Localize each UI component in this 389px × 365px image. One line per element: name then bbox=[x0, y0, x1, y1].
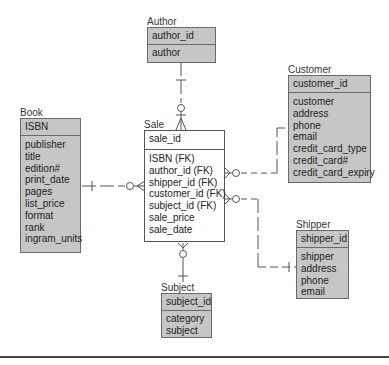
entity-sale-pk: sale_id bbox=[145, 131, 224, 150]
entity-book-attr: format bbox=[25, 210, 76, 222]
entity-customer-box: customer_id customer address phone email… bbox=[288, 75, 371, 183]
entity-book-name: Book bbox=[20, 107, 43, 118]
entity-sale-name: Sale bbox=[144, 119, 164, 130]
entity-book-pk: ISBN bbox=[21, 119, 80, 136]
entity-book-attr: list_price bbox=[25, 198, 76, 210]
entity-customer-attr: credit_card# bbox=[293, 155, 366, 167]
entity-shipper-attr: phone bbox=[301, 275, 344, 287]
entity-book-attr: ingram_units bbox=[25, 233, 76, 245]
entity-sale-attr: customer_id (FK) bbox=[149, 188, 220, 200]
entity-sale-attr: subject_id (FK) bbox=[149, 200, 220, 212]
entity-sale-box: sale_id ISBN (FK) author_id (FK) shipper… bbox=[144, 130, 225, 242]
entity-shipper-attr: address bbox=[301, 263, 344, 275]
entity-book-attr: publisher bbox=[25, 139, 76, 151]
entity-customer-attr: phone bbox=[293, 120, 366, 132]
entity-book-attr: title bbox=[25, 151, 76, 163]
entity-shipper-pk: shipper_id bbox=[297, 231, 348, 248]
footer-divider bbox=[0, 356, 389, 358]
entity-customer-attr: credit_card_expiry bbox=[293, 167, 366, 179]
entity-shipper-name: Shipper bbox=[296, 219, 330, 230]
entity-shipper-attr: shipper bbox=[301, 251, 344, 263]
entity-sale-attr: ISBN (FK) bbox=[149, 153, 220, 165]
entity-subject-pk: subject_id bbox=[162, 294, 211, 311]
entity-sale-attr: sale_price bbox=[149, 212, 220, 224]
entity-book-attr: edition# bbox=[25, 163, 76, 175]
entity-customer-attr: customer bbox=[293, 96, 366, 108]
entity-subject-box: subject_id category subject bbox=[161, 293, 212, 338]
entity-customer-attr: email bbox=[293, 131, 366, 143]
entity-sale-attr: sale_date bbox=[149, 224, 220, 236]
entity-book-attr: rank bbox=[25, 222, 76, 234]
entity-subject-name: Subject bbox=[161, 282, 194, 293]
entity-author-box: author_id author bbox=[147, 27, 216, 63]
entity-author-pk: author_id bbox=[148, 28, 215, 45]
entity-author-attr: author bbox=[152, 47, 211, 59]
entity-book-attr: print_date bbox=[25, 174, 76, 186]
entity-customer-attr: address bbox=[293, 108, 366, 120]
entity-shipper-attr: email bbox=[301, 286, 344, 298]
entity-book-box: ISBN publisher title edition# print_date… bbox=[20, 118, 81, 253]
entity-customer-name: Customer bbox=[288, 64, 331, 75]
entity-subject-attr: subject bbox=[166, 325, 207, 337]
entity-sale-attr: shipper_id (FK) bbox=[149, 177, 220, 189]
entity-subject-attr: category bbox=[166, 313, 207, 325]
entity-author-name: Author bbox=[147, 16, 176, 27]
entity-shipper-box: shipper_id shipper address phone email bbox=[296, 230, 349, 299]
entity-book-attr: pages bbox=[25, 186, 76, 198]
entity-customer-attr: credit_card_type bbox=[293, 143, 366, 155]
entity-sale-attr: author_id (FK) bbox=[149, 165, 220, 177]
entity-customer-pk: customer_id bbox=[289, 76, 370, 93]
